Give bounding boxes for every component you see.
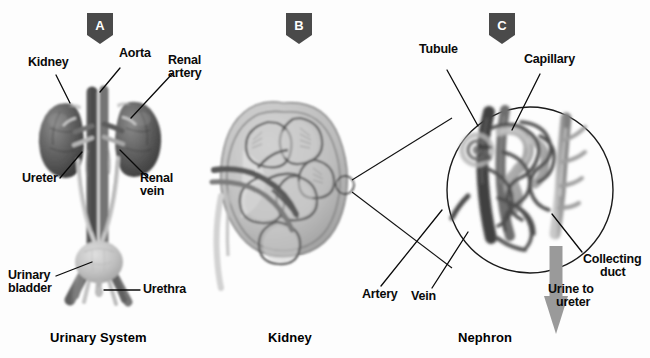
label-renal-vein-line2: vein (140, 185, 164, 199)
panel-badge-c-letter: C (489, 13, 515, 44)
panel-badge-b: B (286, 13, 312, 44)
panel-b-artwork (212, 102, 354, 288)
label-capillary: Capillary (524, 53, 575, 67)
label-vein: Vein (411, 290, 436, 304)
caption-urinary-system: Urinary System (50, 330, 147, 345)
label-urine-line2: ureter (556, 296, 590, 310)
leader-aorta (100, 68, 120, 92)
panel-badge-a-letter: A (87, 13, 113, 44)
label-renal-artery-line2: artery (168, 67, 202, 81)
figure-canvas: A B C Kidney Aorta Renal artery Ureter R… (0, 0, 650, 358)
label-collecting-duct-line2: duct (600, 266, 626, 280)
caption-kidney: Kidney (268, 330, 312, 345)
leader-vein (432, 232, 468, 288)
label-urethra: Urethra (143, 283, 186, 297)
panel-badge-c: C (489, 13, 515, 44)
callout-connectors (352, 118, 452, 268)
label-aorta: Aorta (119, 47, 151, 61)
label-urinary-bladder-line2: bladder (8, 282, 52, 296)
label-artery: Artery (362, 288, 398, 302)
label-tubule: Tubule (419, 43, 458, 57)
leader-kidney (56, 75, 70, 103)
label-ureter: Ureter (22, 172, 58, 186)
panel-badge-b-letter: B (286, 13, 312, 44)
label-kidney: Kidney (28, 56, 68, 70)
panel-badge-a: A (87, 13, 113, 44)
caption-nephron: Nephron (458, 330, 512, 345)
